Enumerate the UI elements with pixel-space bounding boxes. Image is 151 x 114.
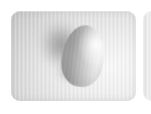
contact-shadow (53, 53, 93, 88)
ovoid-solid (58, 23, 107, 90)
adjacent-panel-stripe-texture (143, 11, 151, 101)
textured-surface-panel (11, 11, 136, 101)
panel-edge-vignette (11, 11, 136, 101)
cast-shadow (13, 11, 97, 86)
ovoid-bounce-light-rim (58, 23, 107, 90)
ovoid-base-occlusion (58, 23, 107, 90)
ovoid-stripe-texture (58, 23, 107, 90)
panel-illumination-gradient (11, 11, 136, 101)
panel-stripe-texture (11, 11, 136, 101)
scene-canvas: Grayscale render of a smooth egg-shaped … (0, 0, 151, 114)
adjacent-panel-sliver (143, 11, 151, 101)
